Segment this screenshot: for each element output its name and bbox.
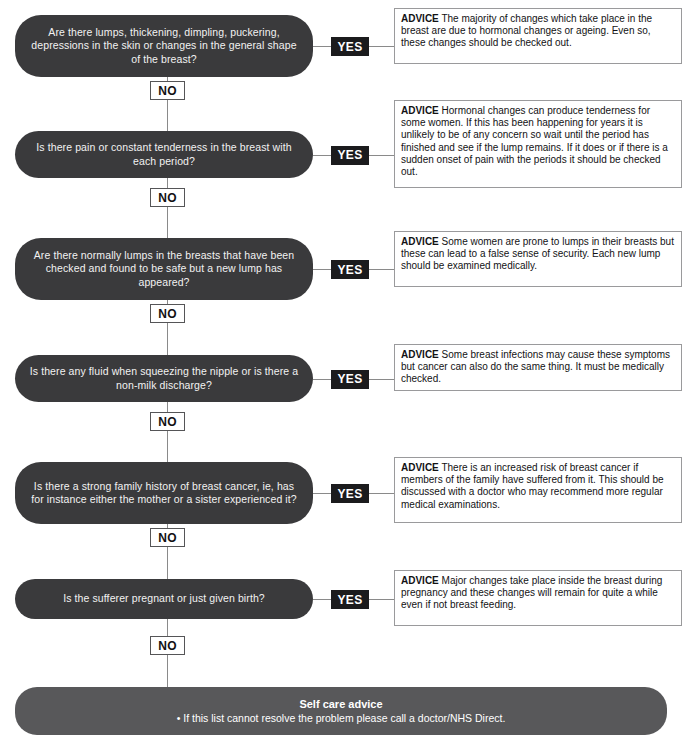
question-box-1[interactable]: Are there lumps, thickening, dimpling, p…: [15, 15, 313, 77]
advice-text: ADVICE Major changes take place inside t…: [401, 575, 676, 612]
advice-label: ADVICE: [401, 462, 439, 473]
connector-yes-left-3: [313, 269, 331, 270]
question-text: Is there pain or constant tenderness in …: [29, 141, 299, 168]
advice-text: ADVICE Hormonal changes can produce tend…: [401, 105, 676, 178]
yes-badge-1[interactable]: YES: [331, 37, 369, 56]
self-care-bullet: • If this list cannot resolve the proble…: [177, 711, 506, 725]
question-box-2[interactable]: Is there pain or constant tenderness in …: [15, 131, 313, 178]
question-box-3[interactable]: Are there normally lumps in the breasts …: [15, 238, 313, 300]
yes-badge-6[interactable]: YES: [331, 590, 369, 609]
no-badge-1[interactable]: NO: [150, 81, 185, 100]
advice-label: ADVICE: [401, 13, 439, 24]
no-badge-6[interactable]: NO: [150, 636, 185, 655]
question-text: Is there a strong family history of brea…: [29, 480, 299, 507]
connector-yes-right-3: [369, 269, 394, 270]
no-badge-5[interactable]: NO: [150, 528, 185, 547]
yes-badge-4[interactable]: YES: [331, 370, 369, 389]
question-text: Is the sufferer pregnant or just given b…: [63, 592, 265, 606]
no-badge-2[interactable]: NO: [150, 188, 185, 207]
connector-yes-left-2: [313, 155, 331, 156]
advice-body: The majority of changes which take place…: [401, 13, 652, 48]
connector-yes-right-2: [369, 155, 394, 156]
connector-no-2: [167, 178, 168, 238]
advice-text: ADVICE There is an increased risk of bre…: [401, 462, 676, 511]
yes-badge-5[interactable]: YES: [331, 484, 369, 503]
yes-badge-2[interactable]: YES: [331, 146, 369, 165]
no-badge-4[interactable]: NO: [150, 412, 185, 431]
connector-yes-left-6: [313, 599, 331, 600]
question-box-4[interactable]: Is there any fluid when squeezing the ni…: [15, 355, 313, 402]
advice-label: ADVICE: [401, 105, 439, 116]
advice-box-5: ADVICE There is an increased risk of bre…: [394, 457, 682, 523]
question-text: Are there normally lumps in the breasts …: [29, 249, 299, 290]
question-text: Is there any fluid when squeezing the ni…: [29, 365, 299, 392]
advice-text: ADVICE Some breast infections may cause …: [401, 349, 676, 386]
connector-yes-left-4: [313, 379, 331, 380]
advice-label: ADVICE: [401, 349, 439, 360]
no-badge-3[interactable]: NO: [150, 304, 185, 323]
self-care-title: Self care advice: [299, 697, 382, 711]
flowchart-diagram: Are there lumps, thickening, dimpling, p…: [0, 0, 686, 743]
question-box-5[interactable]: Is there a strong family history of brea…: [15, 462, 313, 524]
self-care-banner: Self care advice• If this list cannot re…: [15, 687, 667, 735]
advice-box-1: ADVICE The majority of changes which tak…: [394, 8, 682, 64]
advice-box-6: ADVICE Major changes take place inside t…: [394, 570, 682, 626]
advice-box-3: ADVICE Some women are prone to lumps in …: [394, 231, 682, 287]
connector-no-4: [167, 402, 168, 462]
question-box-6[interactable]: Is the sufferer pregnant or just given b…: [15, 579, 313, 619]
advice-body: There is an increased risk of breast can…: [401, 462, 664, 510]
advice-body: Hormonal changes can produce tenderness …: [401, 105, 668, 177]
yes-badge-3[interactable]: YES: [331, 260, 369, 279]
connector-yes-right-5: [369, 493, 394, 494]
advice-body: Some breast infections may cause these s…: [401, 349, 670, 384]
advice-text: ADVICE Some women are prone to lumps in …: [401, 236, 676, 273]
question-text: Are there lumps, thickening, dimpling, p…: [29, 26, 299, 67]
advice-label: ADVICE: [401, 236, 439, 247]
connector-yes-left-5: [313, 493, 331, 494]
advice-body: Major changes take place inside the brea…: [401, 575, 662, 610]
advice-box-2: ADVICE Hormonal changes can produce tend…: [394, 100, 682, 188]
connector-yes-right-6: [369, 599, 394, 600]
advice-box-4: ADVICE Some breast infections may cause …: [394, 344, 682, 391]
advice-text: ADVICE The majority of changes which tak…: [401, 13, 676, 50]
advice-body: Some women are prone to lumps in their b…: [401, 236, 674, 271]
connector-yes-left-1: [313, 46, 331, 47]
connector-yes-right-4: [369, 379, 394, 380]
advice-label: ADVICE: [401, 575, 439, 586]
connector-yes-right-1: [369, 46, 394, 47]
